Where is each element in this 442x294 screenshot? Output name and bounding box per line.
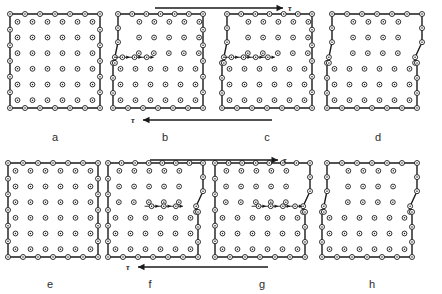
lattice-atom — [280, 106, 285, 111]
lattice-atom — [201, 27, 206, 32]
lattice-atom — [228, 255, 233, 260]
lattice-atom — [310, 90, 315, 95]
lattice-atom — [235, 231, 240, 236]
lattice-atom — [90, 82, 95, 87]
lattice-atom — [173, 247, 178, 252]
lattice-atom — [60, 82, 65, 87]
lattice-atom — [126, 106, 131, 111]
lattice-atom — [407, 98, 412, 103]
lattice-atom — [128, 215, 133, 220]
lattice-atom — [220, 247, 225, 252]
lattice-atom — [151, 51, 156, 56]
lattice-atom — [30, 98, 35, 103]
lattice-atom — [8, 90, 13, 95]
lattice-atom — [21, 161, 26, 166]
lattice-atom — [351, 19, 356, 24]
lattice-atom — [96, 161, 101, 166]
lattice-atom — [75, 35, 80, 40]
lattice-atom — [265, 215, 270, 220]
lattice-atom — [400, 106, 405, 111]
lattice-atom — [88, 200, 93, 205]
lattice-atom — [376, 184, 381, 189]
lattice-atom — [342, 231, 347, 236]
lattice-atom — [415, 189, 420, 194]
lattice-atom — [8, 59, 13, 64]
lattice-atom — [346, 184, 351, 189]
lattice-atom — [366, 19, 371, 24]
lattice-atom — [130, 12, 135, 17]
lattice-atom — [321, 209, 326, 214]
lattice-atom — [327, 215, 332, 220]
lattice-atom — [250, 106, 255, 111]
lattice-atom — [396, 19, 401, 24]
lattice-atom — [320, 224, 325, 229]
lattice-atom — [13, 231, 18, 236]
lattice-atom — [220, 106, 225, 111]
lattice-atom — [148, 98, 153, 103]
lattice-atom — [320, 239, 325, 244]
lattice-atom — [308, 161, 313, 166]
lattice-atom — [302, 82, 307, 87]
lattice-atom — [96, 208, 101, 213]
lattice-atom — [8, 12, 13, 17]
lattice-atom — [402, 215, 407, 220]
lattice-atom — [280, 215, 285, 220]
lattice-atom — [148, 82, 153, 87]
lattice-atom — [272, 98, 277, 103]
lattice-atom — [320, 255, 325, 260]
lattice-atom — [250, 231, 255, 236]
panel-label-g: g — [252, 278, 272, 290]
lattice-atom — [196, 209, 201, 214]
lattice-atom — [223, 200, 228, 205]
lattice-atom — [227, 98, 232, 103]
lattice-atom — [265, 231, 270, 236]
lattice-atom — [213, 161, 218, 166]
lattice-atom — [310, 12, 315, 17]
lattice-atom — [163, 98, 168, 103]
lattice-atom — [410, 239, 415, 244]
lattice-atom — [163, 82, 168, 87]
lattice-atom — [96, 176, 101, 181]
lattice-atom — [21, 255, 26, 260]
lattice-atom — [182, 19, 187, 24]
lattice-atom — [58, 168, 63, 173]
lattice-atom — [253, 12, 258, 17]
lattice-atom — [118, 66, 123, 71]
lattice-atom — [391, 168, 396, 173]
glide-arrow-row — [115, 55, 153, 60]
lattice-atom — [346, 168, 351, 173]
lattice-atom — [6, 239, 11, 244]
lattice-atom — [250, 215, 255, 220]
lattice-atom — [276, 35, 281, 40]
lattice-atom — [239, 168, 244, 173]
tau-symbol: τ — [126, 263, 130, 272]
lattice-atom — [224, 184, 229, 189]
lattice-atom — [321, 204, 326, 209]
lattice-atom — [45, 66, 50, 71]
lattice-atom — [287, 66, 292, 71]
lattice-atom — [201, 74, 206, 79]
lattice-atom — [342, 247, 347, 252]
lattice-atom — [181, 255, 186, 260]
lattice-atom — [60, 66, 65, 71]
lattice-atom — [196, 51, 201, 56]
lattice-atom — [15, 82, 20, 87]
lattice-atom — [377, 98, 382, 103]
lattice-atom — [415, 75, 420, 80]
lattice-atom — [308, 175, 313, 180]
lattice-atom — [147, 168, 152, 173]
lattice-atom — [6, 192, 11, 197]
lattice-atom — [60, 98, 65, 103]
lattice-atom — [290, 51, 295, 56]
lattice-atom — [395, 255, 400, 260]
lattice-atom — [370, 106, 375, 111]
lattice-atom — [133, 161, 138, 166]
lattice-atom — [178, 98, 183, 103]
panel-label-a: a — [45, 131, 65, 143]
lattice-atom — [390, 12, 395, 17]
lattice-atom — [177, 168, 182, 173]
lattice-atom — [8, 106, 13, 111]
lattice-atom — [30, 82, 35, 87]
lattice-atom — [83, 12, 88, 17]
lattice-atom — [201, 106, 206, 111]
